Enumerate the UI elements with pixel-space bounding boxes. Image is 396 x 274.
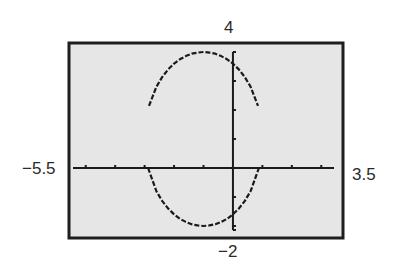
ymax-label: 4 (224, 19, 233, 36)
ymin-label: −2 (218, 243, 237, 260)
xmin-label: −5.5 (22, 160, 56, 177)
screen-frame (69, 43, 343, 238)
xmax-label: 3.5 (352, 166, 376, 183)
calculator-graph-screen (0, 0, 396, 274)
